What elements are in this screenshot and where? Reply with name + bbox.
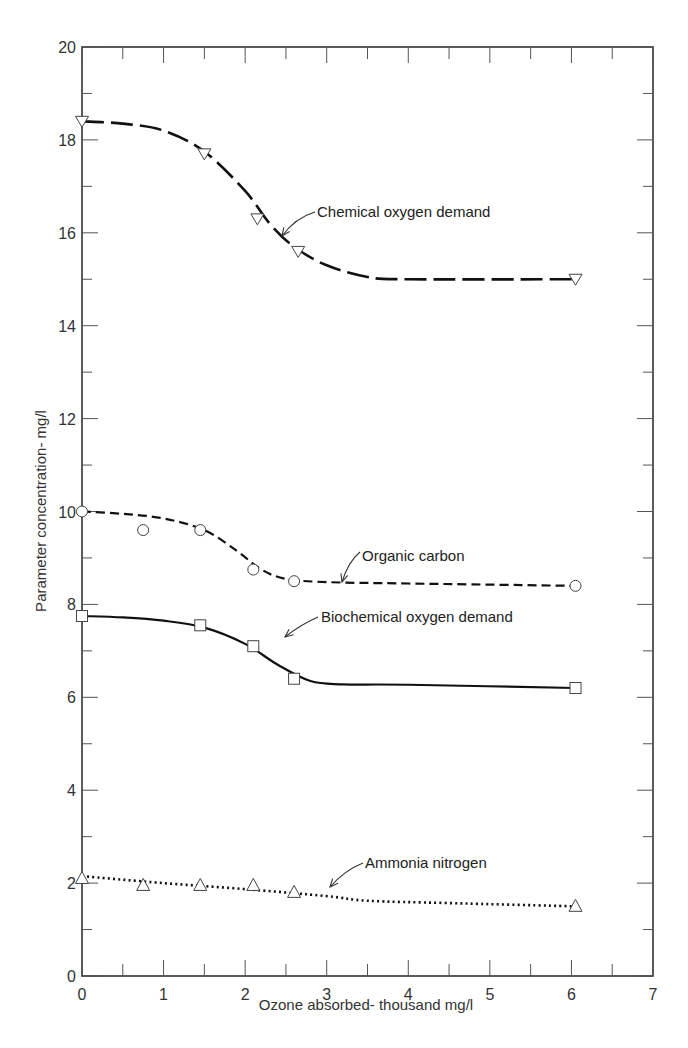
x-tick-label: 1	[159, 986, 168, 1003]
y-tick-label: 10	[58, 504, 76, 521]
annotation-organic-carbon: Organic carbon	[362, 547, 465, 564]
x-axis-title: Ozone absorbed- thousand mg/l	[259, 996, 473, 1013]
x-tick-label: 5	[485, 986, 494, 1003]
x-tick-label: 0	[78, 986, 87, 1003]
y-tick-label: 6	[67, 689, 76, 706]
x-tick-label: 2	[241, 986, 250, 1003]
y-tick-label: 4	[67, 782, 76, 799]
arrow-leader	[285, 617, 318, 637]
y-tick-label: 14	[58, 318, 76, 335]
data-markers	[76, 116, 583, 911]
annotation-bod: Biochemical oxygen demand	[321, 608, 513, 625]
plot-frame	[82, 47, 653, 976]
triangle-up-marker	[76, 871, 89, 883]
triangle-up-marker	[137, 878, 150, 890]
circle-marker	[77, 506, 88, 517]
series-line-2	[82, 616, 576, 688]
y-tick-label: 2	[67, 875, 76, 892]
circle-marker	[570, 580, 581, 591]
square-marker	[570, 683, 581, 694]
y-axis-title: Parameter concentration- mg/l	[32, 410, 49, 612]
arrow-leader	[342, 552, 360, 582]
square-marker	[77, 611, 88, 622]
triangle-up-marker	[288, 885, 301, 897]
series-line-1	[82, 512, 576, 586]
square-marker	[248, 641, 259, 652]
circle-marker	[195, 525, 206, 536]
y-tick-label: 20	[58, 39, 76, 56]
square-marker	[289, 673, 300, 684]
arrow-leader	[330, 863, 363, 887]
axis-ticks: 0246810121416182001234567	[58, 39, 657, 1003]
circle-marker	[289, 576, 300, 587]
y-tick-label: 0	[67, 968, 76, 985]
y-tick-label: 18	[58, 132, 76, 149]
triangle-down-marker	[251, 214, 264, 225]
circle-marker	[138, 525, 149, 536]
y-tick-label: 16	[58, 225, 76, 242]
annotations	[282, 212, 363, 887]
arrow-leader	[282, 212, 315, 236]
plot-border	[82, 47, 653, 976]
series-line-3	[82, 876, 576, 906]
series-lines	[82, 121, 576, 906]
triangle-up-marker	[194, 878, 207, 890]
triangle-up-marker	[247, 878, 260, 890]
annotation-cod: Chemical oxygen demand	[317, 203, 490, 220]
square-marker	[195, 620, 206, 631]
y-tick-label: 12	[58, 411, 76, 428]
chart: 0246810121416182001234567 Ozone absorbed…	[0, 0, 688, 1048]
x-tick-label: 7	[649, 986, 658, 1003]
y-tick-label: 8	[67, 596, 76, 613]
series-line-0	[82, 121, 576, 279]
x-tick-label: 6	[567, 986, 576, 1003]
annotation-ammonia: Ammonia nitrogen	[365, 854, 487, 871]
circle-marker	[248, 564, 259, 575]
